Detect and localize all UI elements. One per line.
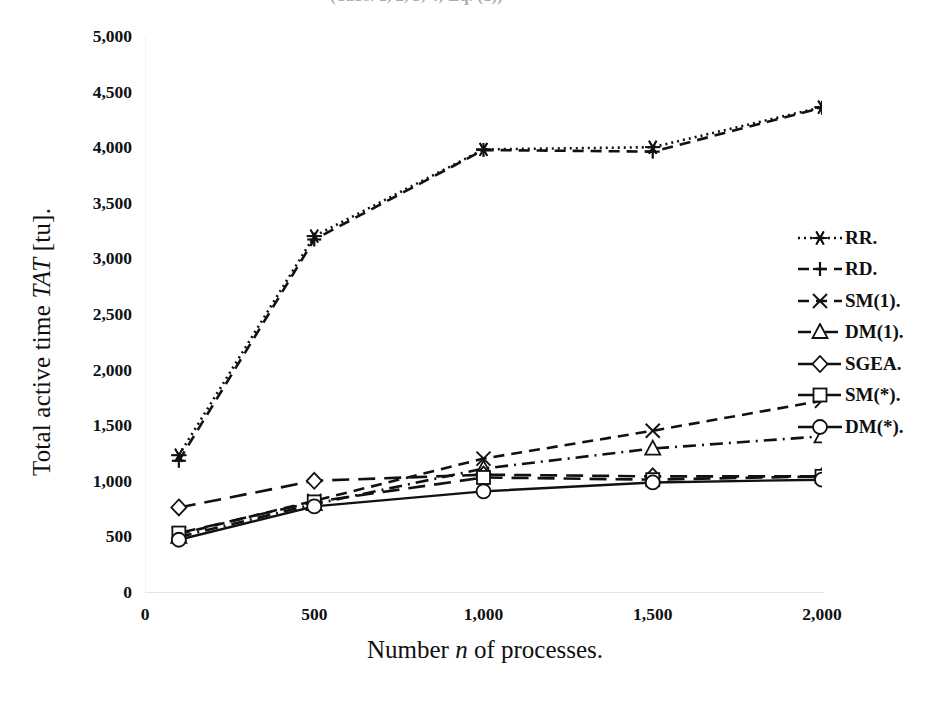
y-tick-label: 2,000 [48, 359, 132, 380]
data-point-diamond [171, 499, 186, 515]
legend-label: SM(1). [845, 290, 900, 312]
x-tick-label: 2,000 [777, 604, 867, 625]
legend-item-DM[interactable]: DM(*). [797, 411, 943, 443]
y-tick-label: 4,000 [48, 137, 132, 158]
legend-item-SM[interactable]: SM(*). [797, 380, 943, 412]
legend-label: SGEA. [845, 353, 902, 375]
x-axis-title: Number n of processes. [145, 636, 825, 664]
y-axis-title-pre: Total active time [28, 299, 55, 476]
dashed-plus-key [797, 260, 843, 278]
data-point-circle [815, 473, 822, 487]
legend-label: DM(1). [845, 321, 904, 343]
x-tick-label: 0 [100, 604, 190, 625]
series-canvas [145, 36, 822, 592]
dashed-cross-key [797, 292, 843, 310]
legend-label: SM(*). [845, 384, 900, 406]
plot-area [145, 36, 822, 592]
data-point-square [814, 389, 827, 402]
y-tick-label: 5,000 [48, 26, 132, 47]
solid-circle-key [797, 418, 843, 436]
legend-item-RR[interactable]: RR. [797, 222, 943, 254]
series-DM1 [171, 428, 822, 543]
y-tick-label: 2,500 [48, 304, 132, 325]
legend-item-SGEA[interactable]: SGEA. [797, 348, 943, 380]
x-axis-title-post: of processes. [468, 636, 603, 663]
data-point-circle [307, 499, 321, 513]
series-RD [172, 101, 822, 468]
x-tick-label: 1,000 [439, 604, 529, 625]
chart-page: (Tabs. 1, 2, 3, 4; Eq. (1)) 5,0004,5004,… [0, 0, 943, 709]
legend-item-SM1[interactable]: SM(1). [797, 285, 943, 317]
x-axis-title-pre: Number [367, 636, 455, 663]
series-line [179, 108, 822, 461]
x-tick-label: 500 [269, 604, 359, 625]
series-line [179, 107, 822, 455]
y-tick-labels: 5,0004,5004,0003,5003,0002,5002,0001,500… [44, 0, 132, 709]
series-line [179, 476, 822, 533]
y-tick-label: 500 [48, 526, 132, 547]
data-point-plus [477, 143, 491, 157]
y-tick-label: 0 [48, 582, 132, 603]
data-point-asterisk [813, 231, 828, 244]
data-point-square [477, 471, 490, 484]
data-point-circle [646, 475, 660, 489]
dotted-asterisk-key [797, 229, 843, 247]
legend-label: RR. [845, 227, 877, 249]
longdash-diamond-key [797, 355, 843, 373]
longdash-square-key [797, 386, 843, 404]
series-line [179, 436, 822, 537]
data-point-circle [477, 484, 491, 498]
data-point-circle [172, 533, 186, 547]
y-axis-title: Total active time TAT [tu]. [28, 132, 56, 552]
data-point-diamond [307, 473, 322, 489]
x-axis-title-italic: n [455, 636, 468, 663]
y-tick-label: 3,000 [48, 248, 132, 269]
legend: RR.RD.SM(1).DM(1).SGEA.SM(*).DM(*). [797, 222, 943, 443]
x-axis-line [145, 592, 824, 593]
legend-label: DM(*). [845, 416, 904, 438]
x-tick-label: 1,500 [608, 604, 698, 625]
legend-item-RD[interactable]: RD. [797, 254, 943, 286]
series-DM [172, 473, 822, 547]
y-tick-label: 1,500 [48, 415, 132, 436]
data-point-circle [813, 420, 827, 434]
y-tick-label: 4,500 [48, 81, 132, 102]
y-axis-title-post: [tu]. [28, 208, 55, 258]
legend-item-DM1[interactable]: DM(1). [797, 317, 943, 349]
dashdot-triangle-key [797, 323, 843, 341]
data-point-plus [813, 262, 827, 276]
y-tick-label: 1,000 [48, 470, 132, 491]
cropped-title-text: (Tabs. 1, 2, 3, 4; Eq. (1)) [330, 0, 503, 6]
series-RR [171, 101, 822, 462]
data-point-diamond [813, 356, 828, 372]
legend-label: RD. [845, 258, 877, 280]
y-axis-title-italic: TAT [28, 258, 55, 299]
cropped-title: (Tabs. 1, 2, 3, 4; Eq. (1)) [0, 0, 943, 9]
y-tick-label: 3,500 [48, 192, 132, 213]
